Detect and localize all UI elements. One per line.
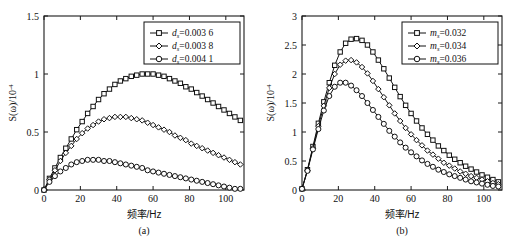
x-tick-label: 100 — [476, 193, 491, 204]
marker-circle — [398, 140, 403, 145]
y-axis-label: S(ω)/10-4 — [7, 84, 20, 122]
marker-square — [200, 94, 204, 98]
x-tick-label: 0 — [42, 193, 47, 204]
marker-square — [458, 161, 462, 165]
marker-circle — [354, 88, 359, 93]
x-axis-label: 频率/Hz — [385, 208, 420, 220]
x-tick-label: 80 — [442, 193, 452, 204]
marker-square — [420, 126, 424, 130]
marker-square — [118, 79, 122, 83]
x-tick-label: 0 — [300, 193, 305, 204]
marker-circle — [194, 178, 199, 183]
marker-circle — [101, 158, 106, 163]
marker-square — [157, 31, 162, 36]
y-tick-label: 3 — [292, 11, 297, 22]
marker-diamond — [161, 127, 167, 132]
marker-circle — [496, 184, 501, 189]
marker-circle — [85, 157, 90, 162]
marker-square — [91, 104, 95, 108]
x-tick-label: 80 — [184, 193, 194, 204]
marker-square — [474, 170, 478, 174]
y-tick-label: 2.5 — [285, 40, 298, 51]
marker-diamond — [232, 159, 238, 165]
marker-square — [233, 115, 237, 119]
marker-square — [173, 79, 177, 83]
marker-circle — [107, 158, 112, 163]
marker-circle — [183, 176, 188, 181]
chart-svg-b: 02040608010000.511.522.53S(ω)/10-4频率/Hz(… — [258, 0, 515, 246]
marker-diamond — [183, 137, 189, 143]
marker-circle — [419, 158, 424, 163]
marker-circle — [112, 160, 117, 165]
marker-square — [398, 94, 402, 98]
marker-circle — [474, 180, 479, 185]
marker-diamond — [205, 148, 211, 154]
marker-diamond — [376, 86, 382, 92]
marker-circle — [403, 145, 408, 150]
marker-diamond — [210, 150, 216, 156]
marker-diamond — [452, 166, 458, 172]
marker-square — [167, 76, 171, 80]
x-tick-label: 40 — [370, 193, 380, 204]
marker-diamond — [139, 118, 145, 124]
marker-square — [211, 101, 215, 105]
marker-circle — [414, 154, 419, 159]
marker-square — [135, 73, 139, 77]
marker-diamond — [129, 115, 135, 121]
y-tick-label: 1.5 — [285, 98, 298, 109]
marker-diamond — [156, 125, 162, 131]
y-tick-label: 0.5 — [285, 156, 298, 167]
marker-diamond — [199, 145, 205, 151]
marker-square — [85, 111, 89, 115]
marker-circle — [118, 161, 123, 166]
marker-square — [129, 74, 133, 78]
y-tick-label: 1 — [34, 69, 39, 80]
marker-circle — [359, 94, 364, 99]
marker-square — [151, 72, 155, 76]
marker-circle — [161, 171, 166, 176]
marker-square — [354, 36, 358, 40]
marker-circle — [387, 128, 392, 133]
marker-square — [365, 43, 369, 47]
marker-diamond — [123, 114, 128, 120]
marker-square — [205, 97, 209, 101]
marker-square — [349, 37, 353, 41]
chart-panel-b: 02040608010000.511.522.53S(ω)/10-4频率/Hz(… — [258, 0, 515, 246]
marker-square — [107, 87, 111, 91]
marker-circle — [316, 127, 321, 132]
marker-circle — [485, 182, 490, 187]
marker-square — [238, 118, 242, 122]
marker-diamond — [90, 122, 96, 128]
marker-circle — [151, 169, 156, 174]
marker-square — [463, 164, 467, 168]
marker-circle — [227, 185, 232, 190]
marker-circle — [232, 186, 237, 191]
marker-circle — [129, 163, 134, 168]
marker-circle — [205, 181, 210, 186]
marker-circle — [310, 147, 315, 152]
x-tick-label: 20 — [333, 193, 343, 204]
marker-circle — [469, 179, 474, 184]
legend-label: ms=0.032 — [430, 28, 466, 39]
x-tick-label: 40 — [112, 193, 122, 204]
x-tick-label: 20 — [75, 193, 85, 204]
marker-circle — [376, 114, 381, 119]
marker-diamond — [227, 157, 233, 163]
series-line-0 — [44, 74, 240, 190]
marker-circle — [200, 179, 205, 184]
marker-square — [140, 72, 144, 76]
marker-square — [371, 50, 375, 54]
marker-square — [222, 108, 226, 112]
marker-diamond — [238, 162, 244, 168]
marker-circle — [365, 100, 370, 105]
marker-diamond — [457, 169, 463, 175]
marker-circle — [425, 161, 430, 166]
y-tick-label: 2 — [292, 69, 297, 80]
marker-diamond — [221, 155, 227, 161]
chart-panel-a: 02040608010000.511.5S(ω)/10-4频率/Hz(a)ds=… — [0, 0, 257, 246]
marker-square — [178, 81, 182, 85]
marker-square — [102, 92, 106, 96]
x-tick-label: 60 — [148, 193, 158, 204]
marker-diamond — [112, 114, 118, 120]
marker-square — [80, 119, 84, 123]
